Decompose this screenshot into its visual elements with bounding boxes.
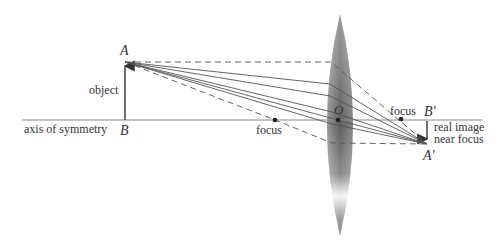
label-point-b-prime: B′ xyxy=(424,104,437,119)
label-point-a: A xyxy=(119,43,129,58)
label-image-line2: near focus xyxy=(434,132,484,146)
focus-left-dot xyxy=(273,118,278,123)
label-focus-right: focus xyxy=(390,104,416,118)
lens-ray-diagram: A B object axis of symmetry focus O focu… xyxy=(0,0,503,242)
label-object: object xyxy=(89,83,119,97)
label-point-b: B xyxy=(120,123,129,138)
label-axis: axis of symmetry xyxy=(24,122,107,136)
label-point-a-prime: A′ xyxy=(422,148,436,163)
center-o-dot xyxy=(336,118,341,123)
convex-lens xyxy=(327,14,353,236)
label-focus-left: focus xyxy=(256,123,282,137)
label-center-o: O xyxy=(334,102,344,117)
